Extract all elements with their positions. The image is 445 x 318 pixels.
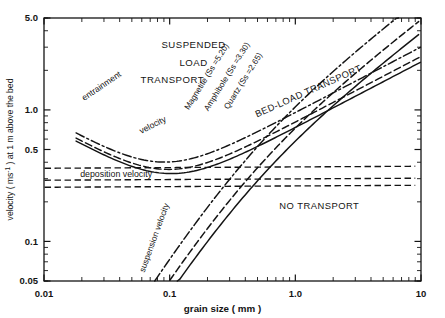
deposition-curve-0 (45, 166, 416, 168)
y-tick-label: 0.05 (20, 275, 39, 286)
curve-label-entrainment: entrainment (80, 69, 124, 103)
sediment-transport-chart: 0.010.11.0105.01.00.50.10.05grain size (… (0, 0, 445, 318)
region-label-transport: TRANSPORT (141, 74, 205, 85)
x-axis-title: grain size ( mm ) (184, 303, 261, 314)
y-tick-label: 0.5 (25, 144, 39, 155)
curve-label-suspension-velocity: suspension velocity (137, 201, 172, 273)
deposition-curve-2 (45, 185, 416, 187)
x-tick-label: 10 (416, 288, 427, 299)
region-label-load: LOAD (180, 57, 208, 68)
y-axis-title: velocity ( ms-1 ) at 1 m above the bed (4, 78, 16, 220)
y-tick-label: 1.0 (25, 104, 38, 115)
region-label-suspended: SUSPENDED (161, 39, 225, 50)
x-tick-label: 0.1 (163, 288, 177, 299)
region-label-no-transport: NO TRANSPORT (279, 200, 359, 211)
x-tick-label: 1.0 (289, 288, 302, 299)
region-label-bed-load-transport: BED-LOAD TRANSPORT (253, 62, 363, 119)
x-tick-label: 0.01 (35, 288, 54, 299)
curve-label-deposition-velocity: deposition velocity (80, 169, 152, 179)
chart-canvas: 0.010.11.0105.01.00.50.10.05grain size (… (0, 0, 445, 318)
y-tick-label: 5.0 (25, 12, 38, 23)
y-tick-label: 0.1 (25, 236, 39, 247)
curve-label-entrainment-velocity: velocity (138, 114, 169, 136)
